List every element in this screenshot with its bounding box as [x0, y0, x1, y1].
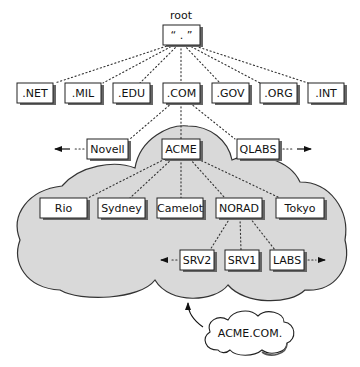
node-mil: .MIL [65, 83, 104, 105]
svg-text:ACME: ACME [165, 143, 197, 156]
svg-text:Tokyo: Tokyo [284, 202, 316, 215]
node-acme: ACME [162, 139, 203, 161]
svg-text:SRV2: SRV2 [183, 254, 212, 267]
svg-text:SRV1: SRV1 [228, 254, 257, 267]
node-tokyo: Tokyo [276, 198, 327, 220]
svg-text:Sydney: Sydney [101, 202, 142, 215]
node-camelot: Camelot [157, 198, 206, 220]
node-srv2: SRV2 [180, 250, 217, 272]
svg-text:.NET: .NET [22, 87, 48, 100]
svg-text:Novell: Novell [90, 143, 124, 156]
svg-text:Rio: Rio [55, 202, 73, 215]
svg-text:LABS: LABS [273, 254, 301, 267]
dns-diagram: root “ . ” .NET .MIL .EDU .COM .GOV .ORG [0, 0, 360, 367]
svg-text:.INT: .INT [315, 87, 337, 100]
node-rio: Rio [40, 198, 90, 220]
svg-text:.ORG: .ORG [264, 87, 292, 100]
tld-row: .NET .MIL .EDU .COM .GOV .ORG .INT [17, 83, 347, 105]
svg-text:.EDU: .EDU [118, 87, 145, 100]
callout-pointer-arrow [188, 303, 203, 327]
svg-text:.COM: .COM [167, 87, 196, 100]
node-srv1: SRV1 [225, 250, 262, 272]
node-gov: .GOV [212, 83, 252, 105]
zone-callout: ACME.COM. [205, 311, 294, 355]
root-caption: root [170, 9, 193, 22]
node-labs: LABS [270, 250, 307, 272]
node-sydney: Sydney [98, 198, 148, 220]
svg-text:Camelot: Camelot [157, 202, 204, 215]
root-node: “ . ” [163, 25, 203, 47]
acme-children-row: Rio Sydney Camelot NORAD Tokyo [40, 198, 327, 220]
node-norad: NORAD [216, 198, 265, 220]
node-int: .INT [308, 83, 347, 105]
root-connectors [55, 45, 308, 83]
svg-text:.MIL: .MIL [72, 87, 95, 100]
norad-children-row: SRV2 SRV1 LABS [180, 250, 307, 272]
node-novell: Novell [87, 139, 131, 161]
node-edu: .EDU [113, 83, 153, 105]
node-com: .COM [163, 83, 203, 105]
node-org: .ORG [260, 83, 300, 105]
root-node-label: “ . ” [171, 29, 193, 42]
zone-callout-label: ACME.COM. [218, 327, 282, 340]
node-qlabs: QLABS [237, 139, 282, 161]
svg-text:NORAD: NORAD [219, 202, 259, 215]
svg-text:.GOV: .GOV [216, 87, 244, 100]
com-children-row: Novell ACME QLABS [87, 139, 282, 161]
node-net: .NET [17, 83, 56, 105]
svg-text:QLABS: QLABS [240, 143, 277, 156]
